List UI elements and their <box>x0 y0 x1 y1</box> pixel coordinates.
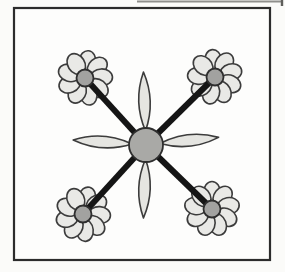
daisy-center-disc-top-right <box>207 69 224 86</box>
daisy-center-disc-bottom-left <box>75 206 92 223</box>
flower-diagram-svg <box>0 0 285 272</box>
daisy-center-disc-bottom-right <box>204 201 221 218</box>
illustration-canvas <box>0 0 285 272</box>
center-flower-disc <box>129 128 163 162</box>
daisy-center-disc-top-left <box>77 70 94 87</box>
